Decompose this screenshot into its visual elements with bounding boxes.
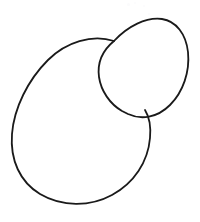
ellipses-figure <box>0 0 200 222</box>
drawing-canvas <box>0 0 200 222</box>
canvas-background <box>0 0 200 222</box>
